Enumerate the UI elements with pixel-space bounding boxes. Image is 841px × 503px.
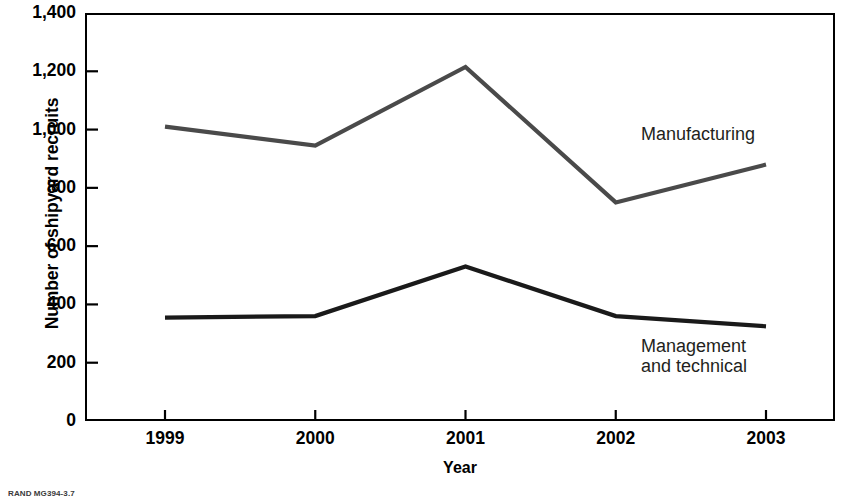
- x-tick-label: 2001: [411, 430, 521, 448]
- figure-container: Number of shipyard recruits 020040060080…: [0, 0, 841, 503]
- x-tick-label: 2000: [260, 430, 370, 448]
- y-tick-label: 600: [8, 237, 76, 255]
- y-tick-label: 0: [8, 412, 76, 430]
- x-tick-label: 1999: [110, 430, 220, 448]
- x-axis-tick-marks: [165, 410, 766, 421]
- source-note: RAND MG394-3.7: [8, 489, 75, 498]
- x-tick-label: 2003: [711, 430, 821, 448]
- y-tick-label: 200: [8, 354, 76, 372]
- series-line-management-and-technical: [165, 267, 766, 327]
- x-axis-title: Year: [85, 459, 835, 477]
- y-tick-label: 1,200: [8, 62, 76, 80]
- x-tick-label: 2002: [561, 430, 671, 448]
- y-tick-label: 800: [8, 179, 76, 197]
- series-label-manufacturing: Manufacturing: [641, 124, 755, 144]
- series-label-management: Management and technical: [641, 336, 747, 376]
- y-tick-label: 1,000: [8, 121, 76, 139]
- y-axis-tick-labels: 02004006008001,0001,2001,400: [0, 0, 76, 440]
- y-tick-label: 400: [8, 295, 76, 313]
- y-tick-label: 1,400: [8, 4, 76, 22]
- y-axis-tick-marks: [85, 71, 98, 362]
